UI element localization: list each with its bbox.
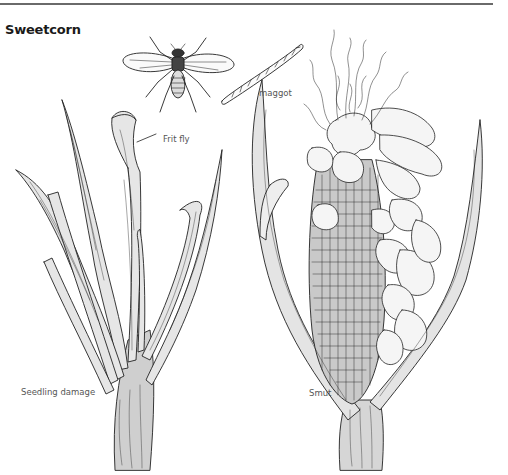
smut-label: Smut	[309, 388, 331, 398]
frit-fly-icon	[123, 37, 234, 112]
maggot-label: maggot	[259, 88, 292, 98]
illustration-canvas	[0, 0, 508, 475]
frit-fly-label: Frit fly	[163, 134, 190, 144]
seedling-damage-plant	[16, 100, 222, 470]
seedling-damage-label: Seedling damage	[21, 387, 95, 397]
